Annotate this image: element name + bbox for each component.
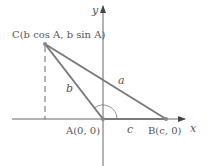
side-c-label: c [127,123,133,136]
point-A-label: A(0, 0) [65,125,100,136]
side-a [45,44,166,119]
side-a-label: a [118,74,125,87]
point-B-label: B(c, 0) [148,125,182,136]
triangle-diagram: y x C(b cos A, b sin A) A(0, 0) B(c, 0) … [0,0,210,166]
x-axis-label: x [190,122,197,135]
point-C [43,42,47,46]
side-b [45,44,103,119]
point-A [101,117,105,121]
point-B [164,117,168,121]
side-b-label: b [66,82,73,95]
point-C-label: C(b cos A, b sin A) [12,29,105,40]
y-axis-label: y [91,4,99,17]
